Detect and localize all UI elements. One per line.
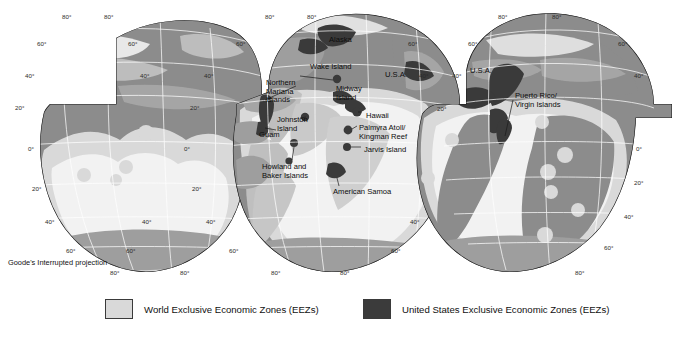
- map-label-guam: Guam: [259, 131, 280, 140]
- map-label-wake-island: Wake Island: [310, 63, 352, 72]
- graticule-label: 40°: [410, 219, 419, 226]
- projection-caption: Goode's Interrupted projection: [8, 258, 107, 267]
- graticule-label: 80°: [575, 270, 584, 277]
- us-eez-wake-island: [333, 75, 341, 83]
- map-label-midway-island: Midway Island: [336, 85, 362, 102]
- graticule-label: 80°: [104, 14, 113, 21]
- graticule-label: 60°: [126, 248, 135, 255]
- graticule-label: 40°: [142, 219, 151, 226]
- graticule-label: 40°: [206, 219, 215, 226]
- graticule-label: 0°: [28, 146, 34, 153]
- graticule-label: 60°: [468, 41, 477, 48]
- legend-us-eez-label: United States Exclusive Economic Zones (…: [402, 304, 609, 315]
- graticule-label: 80°: [307, 14, 316, 21]
- graticule-label: 80°: [552, 14, 561, 21]
- graticule-label: 60°: [236, 41, 245, 48]
- map-lobe-right: [410, 0, 676, 285]
- map-label-palmyra-atoll-kingman-reef: Palmyra Atoll/ Kingman Reef: [359, 124, 407, 141]
- graticule-label: 20°: [192, 186, 201, 193]
- graticule-label: 40°: [624, 214, 633, 221]
- graticule-label: 20°: [32, 186, 41, 193]
- graticule-label: 60°: [37, 41, 46, 48]
- graticule-label: 40°: [45, 219, 54, 226]
- graticule-label: 40°: [140, 73, 149, 80]
- eez-world-map-figure: 80°80°60°60°40°40°20°0°20°40°40°60°60°80…: [0, 0, 676, 339]
- legend-us-eez: United States Exclusive Economic Zones (…: [363, 299, 609, 319]
- graticule-label: 60°: [391, 248, 400, 255]
- graticule-label: 40°: [25, 73, 34, 80]
- graticule-label: 20°: [190, 105, 199, 112]
- graticule-label: 40°: [419, 73, 428, 80]
- graticule-label: 0°: [636, 146, 642, 153]
- graticule-label: 80°: [271, 270, 280, 277]
- graticule-label: 80°: [498, 14, 507, 21]
- map-label-puerto-rico-virgin-islands: Puerto Rico/ Virgin Islands: [515, 92, 560, 109]
- graticule-label: 40°: [634, 73, 643, 80]
- graticule-label: 60°: [604, 245, 613, 252]
- map-label-american-samoa: American Samoa: [333, 188, 391, 197]
- map-label-northern-mariana-islands: Northern Mariana Islands: [266, 79, 296, 105]
- map-label-hawaii: Hawaii: [366, 112, 389, 121]
- map-label-usa-atlantic: U.S.A.: [470, 67, 492, 76]
- graticule-label: 60°: [618, 41, 627, 48]
- us-eez-jarvis-island: [343, 143, 351, 151]
- legend-world-eez-label: World Exclusive Economic Zones (EEZs): [144, 304, 319, 315]
- graticule-label: 80°: [180, 270, 189, 277]
- graticule-label: 60°: [66, 248, 75, 255]
- map-label-alaska: Alaska: [329, 36, 352, 45]
- graticule-label: 20°: [437, 106, 446, 113]
- legend-world-eez: World Exclusive Economic Zones (EEZs): [105, 299, 319, 319]
- us-eez-howland-baker: [290, 139, 298, 147]
- graticule-label: 80°: [340, 270, 349, 277]
- map-area: 80°80°60°60°40°40°20°0°20°40°40°60°60°80…: [0, 0, 676, 285]
- map-label-jarvis-island: Jarvis Island: [364, 146, 406, 155]
- graticule-label: 20°: [634, 180, 643, 187]
- graticule-label: 60°: [128, 41, 137, 48]
- graticule-label: 80°: [265, 14, 274, 21]
- graticule-label: 40°: [204, 73, 213, 80]
- map-label-usa-pacific: U.S.A.: [385, 71, 407, 80]
- legend-us-eez-swatch: [363, 299, 391, 319]
- graticule-label: 20°: [15, 105, 24, 112]
- graticule-label: 60°: [408, 41, 417, 48]
- map-label-johnston-island: Johnston Island: [277, 116, 308, 133]
- us-eez-palmyra-kingman: [344, 126, 353, 135]
- legend-world-eez-swatch: [105, 299, 133, 319]
- graticule-label: 0°: [184, 146, 190, 153]
- map-legend: World Exclusive Economic Zones (EEZs)Uni…: [0, 285, 676, 339]
- graticule-label: 60°: [229, 248, 238, 255]
- map-label-howland-and-baker-islands: Howland and Baker Islands: [262, 163, 308, 180]
- graticule-label: 40°: [452, 73, 461, 80]
- graticule-label: 80°: [62, 14, 71, 21]
- graticule-label: 80°: [110, 270, 119, 277]
